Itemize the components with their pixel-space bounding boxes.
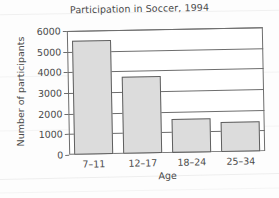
y-tick-label: 6000: [37, 26, 61, 37]
bar-series: [67, 27, 265, 155]
x-axis-title: Age: [70, 168, 265, 183]
bar: [72, 40, 113, 154]
chart-screenshot: Participation in Soccer, 1994 Number of …: [0, 0, 279, 198]
bar: [122, 76, 163, 154]
bar: [171, 118, 211, 153]
x-tick-label: 12–17: [128, 157, 157, 169]
bar: [220, 121, 260, 152]
y-tick-label: 1000: [39, 129, 63, 140]
y-tick-label: 0: [57, 149, 63, 160]
x-tick-label: 25–34: [226, 155, 255, 167]
y-tick-mark: [65, 155, 69, 156]
plot-region: 0100020003000400050006000 7–1112–1718–24…: [67, 27, 265, 155]
x-tick-label: 18–24: [177, 156, 206, 168]
chart-title: Participation in Soccer, 1994: [0, 0, 279, 16]
y-axis-title: Number of participants: [15, 27, 26, 157]
y-tick-label: 3000: [38, 87, 62, 98]
y-tick-label: 5000: [37, 46, 61, 57]
y-tick-label: 4000: [37, 67, 61, 78]
x-tick-label: 7–11: [82, 158, 105, 169]
scan-artifact: [0, 188, 279, 194]
y-tick-label: 2000: [38, 108, 62, 119]
